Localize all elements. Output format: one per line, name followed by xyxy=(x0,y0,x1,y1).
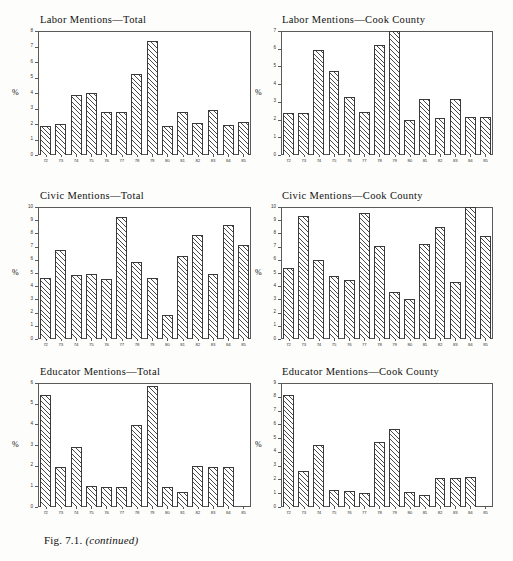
chart-panel: Civic Mentions—Total xyxy=(26,190,144,203)
y-tick-label: 1 xyxy=(264,323,276,328)
x-tick-mark xyxy=(213,339,214,341)
bar-cell xyxy=(432,383,447,507)
x-tick-mark xyxy=(167,507,168,509)
y-tick-label: 4 xyxy=(264,449,276,454)
bar xyxy=(283,113,294,156)
bar xyxy=(359,112,370,155)
bar xyxy=(86,486,97,507)
y-tick-label: 5 xyxy=(264,64,276,69)
bar-cell xyxy=(145,207,160,339)
chart-title: Labor Mentions—Cook County xyxy=(268,14,425,25)
x-tick-label: 83 xyxy=(449,343,461,347)
bar-cell xyxy=(160,31,175,155)
x-tick-mark xyxy=(183,339,184,341)
x-tick-label: 82 xyxy=(434,343,446,347)
x-tick-mark xyxy=(122,155,123,157)
x-tick-label: 73 xyxy=(298,511,310,515)
x-tick-mark xyxy=(183,155,184,157)
y-tick-label: 5 xyxy=(264,271,276,276)
y-tick-mark xyxy=(278,507,281,508)
bar-cell xyxy=(357,207,372,339)
x-tick-label: 72 xyxy=(40,159,52,163)
bar-cell xyxy=(68,31,83,155)
bar xyxy=(40,395,51,507)
bar xyxy=(435,478,446,507)
bar-cell xyxy=(99,31,114,155)
x-tick-mark xyxy=(137,507,138,509)
x-tick-mark xyxy=(228,507,229,509)
bar xyxy=(162,315,173,339)
bar-cell xyxy=(281,383,296,507)
x-tick-label: 81 xyxy=(419,511,431,515)
x-tick-label: 83 xyxy=(207,343,219,347)
x-tick-mark xyxy=(289,155,290,157)
x-tick-label: 81 xyxy=(177,159,189,163)
bar-cell xyxy=(296,31,311,155)
y-tick-label: 6 xyxy=(21,381,33,386)
x-tick-mark xyxy=(364,339,365,341)
bar xyxy=(131,262,142,339)
bar xyxy=(298,216,309,339)
bar xyxy=(223,125,234,155)
y-tick-label: 0 xyxy=(264,337,276,342)
bar-cell xyxy=(53,383,68,507)
bar xyxy=(238,245,249,339)
x-tick-mark xyxy=(183,507,184,509)
x-tick-mark xyxy=(61,155,62,157)
y-tick-label: 1 xyxy=(264,135,276,140)
x-tick-label: 80 xyxy=(404,159,416,163)
bar-cell xyxy=(190,207,205,339)
bar-cell xyxy=(84,31,99,155)
y-tick-label: 6 xyxy=(264,46,276,51)
x-tick-label: 77 xyxy=(358,159,370,163)
bar xyxy=(192,466,203,507)
bar xyxy=(131,425,142,507)
y-tick-label: 5 xyxy=(21,401,33,406)
x-tick-mark xyxy=(349,155,350,157)
y-tick-label: 9 xyxy=(264,218,276,223)
bar-cell xyxy=(236,207,251,339)
y-tick-label: 0 xyxy=(21,153,33,158)
bar-series xyxy=(281,31,493,155)
bar-cell xyxy=(84,383,99,507)
y-tick-label: 5 xyxy=(21,75,33,80)
x-tick-label: 79 xyxy=(146,159,158,163)
y-tick-label: 1 xyxy=(21,484,33,489)
figure-number: Fig. 7.1. xyxy=(44,534,82,546)
x-tick-mark xyxy=(91,155,92,157)
bar-cell xyxy=(417,207,432,339)
x-tick-label: 72 xyxy=(283,343,295,347)
bar-cell xyxy=(311,207,326,339)
bar xyxy=(389,429,400,507)
bar-cell xyxy=(448,383,463,507)
y-tick-label: 6 xyxy=(21,60,33,65)
x-tick-mark xyxy=(46,339,47,341)
x-tick-label: 72 xyxy=(40,343,52,347)
x-tick-mark xyxy=(410,339,411,341)
x-tick-label: 82 xyxy=(434,511,446,515)
x-tick-label: 74 xyxy=(313,343,325,347)
x-tick-label: 84 xyxy=(464,511,476,515)
bar xyxy=(389,31,400,155)
bar xyxy=(55,467,66,507)
x-tick-label: 82 xyxy=(192,159,204,163)
y-tick-label: 8 xyxy=(264,231,276,236)
y-tick-mark xyxy=(278,155,281,156)
bar xyxy=(329,71,340,155)
x-tick-mark xyxy=(243,507,244,509)
x-tick-mark xyxy=(289,339,290,341)
y-tick-label: 2 xyxy=(264,477,276,482)
bar-cell xyxy=(221,207,236,339)
y-tick-label: 2 xyxy=(21,310,33,315)
bar-cell xyxy=(478,383,493,507)
bar xyxy=(71,95,82,155)
x-tick-label: 73 xyxy=(55,511,67,515)
bar-cell xyxy=(38,383,53,507)
y-tick-label: 10 xyxy=(21,205,33,210)
x-tick-label: 74 xyxy=(70,511,82,515)
y-axis-label: % xyxy=(255,268,262,277)
x-tick-label: 81 xyxy=(177,511,189,515)
bar xyxy=(313,260,324,339)
x-tick-mark xyxy=(440,507,441,509)
bar-cell xyxy=(205,383,220,507)
